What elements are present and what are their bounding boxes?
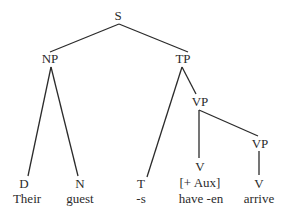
node-s: S — [114, 9, 121, 23]
branch-s-np — [50, 24, 119, 52]
node-v-aux: V — [195, 160, 204, 174]
node-d: D — [19, 177, 28, 191]
branch-vp-vp — [199, 110, 258, 136]
node-v-main: V — [254, 177, 263, 191]
branch-s-tp — [119, 24, 188, 52]
word-arrive: arrive — [244, 192, 274, 206]
tree-branches — [0, 0, 294, 214]
word-s-suffix: -s — [136, 192, 145, 206]
feature-aux: [+ Aux] — [180, 176, 221, 190]
node-np: NP — [42, 52, 59, 66]
branch-np-d — [28, 67, 51, 176]
syntax-tree: S NP TP VP VP D Their N guest T -s V [+ … — [0, 0, 294, 214]
branch-np-n — [51, 67, 78, 176]
node-t: T — [137, 177, 145, 191]
branch-tp-t — [147, 67, 182, 177]
node-tp: TP — [175, 52, 190, 66]
branch-tp-vp — [182, 67, 196, 94]
word-guest: guest — [66, 192, 93, 206]
node-n: N — [75, 177, 84, 191]
node-vp-lower: VP — [252, 137, 269, 151]
word-have-en: have -en — [179, 192, 223, 206]
node-vp: VP — [192, 95, 209, 109]
word-their: Their — [13, 192, 41, 206]
